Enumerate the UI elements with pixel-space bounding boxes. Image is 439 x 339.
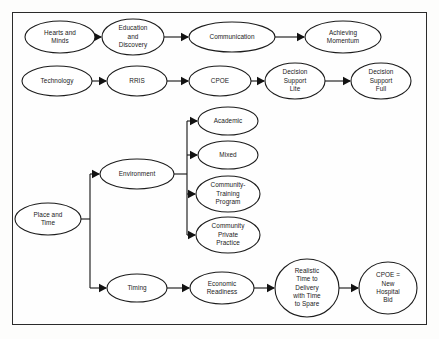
node-label-cpoe-new-hospital-bid: Bid — [383, 296, 393, 303]
node-education-and-discovery[interactable]: EducationandDiscovery — [102, 19, 164, 55]
edge-economic-readiness-to-realistic-time-to-delivery — [254, 284, 275, 292]
arrowhead-environment — [92, 170, 100, 178]
node-label-economic-readiness: Readiness — [207, 288, 238, 295]
arrowhead-communication — [181, 33, 189, 41]
arrowhead-rris — [99, 77, 107, 85]
edge-decision-support-lite-to-decision-support-full — [325, 77, 351, 85]
flowchart-graph: Hearts andMindsEducationandDiscoveryComm… — [0, 0, 439, 339]
edge-rris-to-cpoe — [167, 77, 189, 85]
node-label-decision-support-full: Decision — [369, 68, 394, 75]
node-realistic-time-to-delivery[interactable]: RealisticTime toDeliverywith Timeto Spar… — [275, 259, 339, 317]
node-achieving-momentum[interactable]: AchievingMomentum — [305, 21, 381, 53]
node-label-cpoe-new-hospital-bid: CPOE = — [376, 271, 400, 278]
node-label-economic-readiness: Economic — [208, 280, 237, 287]
node-label-hearts-and-minds: Hearts and — [44, 29, 76, 36]
arrowhead-community-private-practice — [188, 231, 196, 239]
node-label-realistic-time-to-delivery: with Time — [292, 292, 321, 299]
node-layer: Hearts andMindsEducationandDiscoveryComm… — [15, 19, 417, 317]
node-environment[interactable]: Environment — [100, 159, 174, 189]
edge-technology-to-rris — [92, 77, 107, 85]
arrowhead-cpoe — [181, 77, 189, 85]
node-label-community-private-practice: Private — [218, 231, 239, 238]
node-label-mixed: Mixed — [219, 151, 237, 158]
node-rris[interactable]: RRIS — [107, 66, 167, 96]
node-label-education-and-discovery: Discovery — [119, 41, 148, 49]
node-label-place-and-time: Place and — [34, 211, 63, 218]
node-label-community-training-program: Program — [216, 198, 241, 206]
node-label-realistic-time-to-delivery: Realistic — [295, 267, 320, 274]
node-label-achieving-momentum: Achieving — [329, 29, 358, 37]
node-communication[interactable]: Communication — [189, 22, 275, 52]
node-label-communication: Communication — [209, 33, 254, 40]
node-decision-support-full[interactable]: DecisionSupportFull — [351, 63, 411, 99]
node-label-hearts-and-minds: Minds — [51, 37, 68, 44]
edge-timing-to-economic-readiness — [167, 284, 190, 292]
node-label-decision-support-full: Support — [370, 77, 393, 85]
node-place-and-time[interactable]: Place andTime — [15, 203, 81, 235]
node-technology[interactable]: Technology — [22, 66, 92, 96]
node-label-cpoe: CPOE — [211, 77, 229, 84]
node-label-education-and-discovery: Education — [119, 24, 148, 31]
arrowhead-cpoe-new-hospital-bid — [351, 284, 359, 292]
node-label-community-training-program: Community- — [211, 181, 246, 189]
node-cpoe[interactable]: CPOE — [189, 66, 251, 96]
arrowhead-academic — [190, 117, 198, 125]
edge-communication-to-achieving-momentum — [275, 33, 305, 41]
node-community-private-practice[interactable]: CommunityPrivatePractice — [196, 217, 260, 253]
arrowhead-economic-readiness — [182, 284, 190, 292]
node-label-community-private-practice: Practice — [216, 239, 240, 246]
node-label-cpoe-new-hospital-bid: Hospital — [376, 288, 400, 296]
node-decision-support-lite[interactable]: DecisionSupportLite — [265, 63, 325, 99]
node-label-rris: RRIS — [129, 77, 144, 84]
node-label-environment: Environment — [119, 170, 156, 177]
node-label-technology: Technology — [41, 77, 75, 85]
node-academic[interactable]: Academic — [198, 107, 258, 135]
node-label-education-and-discovery: and — [128, 33, 139, 40]
arrowhead-decision-support-lite — [257, 77, 265, 85]
arrowhead-timing — [99, 284, 107, 292]
node-economic-readiness[interactable]: EconomicReadiness — [190, 272, 254, 304]
node-label-achieving-momentum: Momentum — [327, 37, 359, 44]
node-cpoe-new-hospital-bid[interactable]: CPOE =NewHospitalBid — [359, 262, 417, 314]
environment-bus — [174, 117, 198, 239]
node-label-place-and-time: Time — [41, 219, 56, 226]
diagram-canvas: Hearts andMindsEducationandDiscoveryComm… — [0, 0, 439, 339]
node-timing[interactable]: Timing — [107, 274, 167, 302]
edge-cpoe-to-decision-support-lite — [251, 77, 265, 85]
arrowhead-realistic-time-to-delivery — [267, 284, 275, 292]
node-label-realistic-time-to-delivery: Delivery — [295, 284, 319, 292]
node-community-training-program[interactable]: Community-TrainingProgram — [196, 176, 260, 212]
node-label-community-private-practice: Community — [212, 222, 246, 230]
node-label-timing: Timing — [127, 284, 147, 292]
node-label-academic: Academic — [214, 117, 243, 124]
edge-education-and-discovery-to-communication — [164, 33, 189, 41]
node-hearts-and-minds[interactable]: Hearts andMinds — [25, 21, 95, 53]
arrowhead-community-training-program — [188, 190, 196, 198]
edge-realistic-time-to-delivery-to-cpoe-new-hospital-bid — [339, 284, 359, 292]
node-label-decision-support-lite: Decision — [283, 68, 308, 75]
node-label-decision-support-lite: Lite — [290, 85, 301, 92]
node-label-decision-support-lite: Support — [284, 77, 307, 85]
arrowhead-achieving-momentum — [297, 33, 305, 41]
node-label-realistic-time-to-delivery: Time to — [296, 275, 318, 282]
node-label-decision-support-full: Full — [376, 85, 387, 92]
node-label-realistic-time-to-delivery: to Spare — [295, 300, 320, 308]
node-mixed[interactable]: Mixed — [198, 141, 258, 169]
node-label-cpoe-new-hospital-bid: New — [382, 280, 395, 287]
node-label-community-training-program: Training — [216, 190, 240, 198]
place-and-time-bus — [81, 170, 107, 292]
arrowhead-decision-support-full — [343, 77, 351, 85]
arrowhead-mixed — [190, 151, 198, 159]
